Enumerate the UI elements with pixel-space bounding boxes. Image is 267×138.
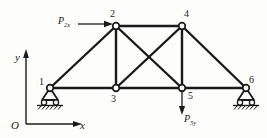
truss-diagram-svg (0, 0, 267, 138)
roller-wheel-right-node-1 (53, 100, 58, 105)
figure-container: 1 2 3 4 5 6 y x O P2x P5y (0, 0, 267, 138)
joint-node-6 (243, 85, 250, 92)
force-label-p5y-sub: 5y (190, 119, 196, 126)
origin-label: O (11, 120, 19, 131)
roller-wheel-left-node-1 (41, 100, 46, 105)
y-axis-label: y (15, 52, 20, 63)
force-arrow-p2x (78, 21, 113, 27)
force-arrow-p2x-head (104, 21, 113, 27)
joint-node-2 (113, 23, 120, 30)
node-label-6: 6 (249, 75, 254, 85)
node-label-4: 4 (184, 9, 189, 19)
joint-node-4 (179, 23, 186, 30)
joint-node-1 (47, 85, 54, 92)
y-axis-arrowhead (23, 49, 29, 58)
node-label-3: 3 (111, 94, 116, 104)
x-axis-label: x (80, 120, 85, 131)
node-label-2: 2 (110, 9, 115, 19)
force-label-p2x: P2x (58, 16, 70, 29)
node-label-5: 5 (188, 91, 193, 101)
node-label-1: 1 (39, 77, 44, 87)
member-4-6 (182, 26, 246, 88)
force-label-p2x-sub: 2x (64, 21, 70, 28)
joint-node-3 (113, 85, 120, 92)
force-arrow-p5y (179, 90, 185, 115)
member-1-2 (50, 26, 116, 88)
roller-wheel-right-node-6 (249, 100, 254, 105)
force-label-p5y: P5y (184, 114, 196, 127)
roller-wheel-left-node-6 (237, 100, 242, 105)
truss-members (50, 26, 246, 88)
